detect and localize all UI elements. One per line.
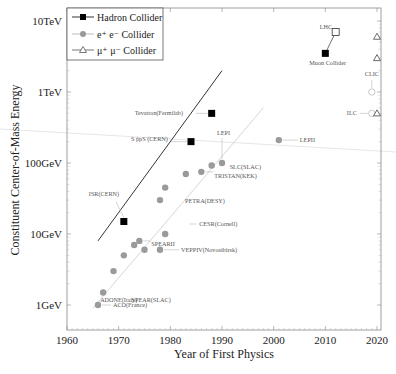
point-labels: ISR(CERN)S p̄pS (CERN)Tevatron(Fermilab)… — [89, 23, 379, 309]
ee-point — [183, 171, 189, 177]
point-label: LEPI — [217, 129, 230, 136]
hadron-point — [188, 138, 195, 145]
point-label: ILC — [347, 109, 357, 116]
svg-text:e⁺ e⁻ Collider: e⁺ e⁻ Collider — [97, 29, 155, 40]
ee-point — [141, 247, 147, 253]
ee-point — [131, 242, 137, 248]
point-label: ISR(CERN) — [89, 190, 119, 198]
hadron-point — [208, 110, 215, 117]
hadron-trend — [98, 71, 222, 241]
point-label: CLIC — [365, 70, 379, 77]
point-label: PETRA(DESY) — [185, 197, 225, 205]
mumu-point — [374, 55, 381, 61]
point-label: LHC — [320, 23, 332, 30]
ee-point — [121, 252, 127, 258]
ee-point — [162, 184, 168, 190]
x-tick-label: 2010 — [314, 334, 337, 346]
energy-frontier-chart: 19601970198019902000201020201GeV10GeV100… — [0, 0, 396, 374]
point-label: SPEARII — [151, 240, 174, 247]
ee-point-open — [369, 89, 375, 95]
ee-point — [100, 289, 106, 295]
background-artifact-line — [0, 129, 396, 152]
x-tick-label: 2000 — [263, 334, 286, 346]
y-tick-label: 10TeV — [32, 15, 62, 27]
ee-point — [276, 137, 282, 143]
point-label: CESR(Cornell) — [199, 220, 237, 228]
x-tick-label: 1980 — [159, 334, 182, 346]
ee-point — [136, 238, 142, 244]
ee-point — [219, 160, 225, 166]
ee-point — [157, 197, 163, 203]
point-label: SLC(SLAC) — [230, 163, 261, 171]
ee-point — [198, 169, 204, 175]
point-label: SPEAR(SLAC) — [132, 296, 171, 304]
ee-point — [208, 162, 214, 168]
ee-trend — [93, 108, 264, 308]
hadron-point-open — [332, 28, 339, 35]
ee-point — [157, 247, 163, 253]
filled-square-icon — [80, 14, 86, 20]
mumu-point — [374, 33, 381, 39]
hadron-point — [120, 218, 127, 225]
y-tick-label: 1TeV — [38, 86, 62, 98]
ee-point — [162, 231, 168, 237]
y-tick-label: 10GeV — [30, 228, 62, 240]
point-label: TRISTAN(KEK) — [214, 172, 256, 180]
point-label: Tevatron(Fermilab) — [135, 109, 183, 117]
y-tick-label: 100GeV — [25, 157, 62, 169]
ee-point — [110, 268, 116, 274]
point-label: VEPPIV(Novosibirsk) — [181, 246, 237, 254]
legend: Hadron Collider e⁺ e⁻ Collider μ⁺ μ⁻ Col… — [67, 8, 163, 60]
x-tick-label: 1990 — [211, 334, 234, 346]
svg-text:μ⁺ μ⁻ Collider: μ⁺ μ⁻ Collider — [97, 45, 157, 56]
x-axis-title: Year of First Physics — [174, 347, 274, 361]
trend-lines — [93, 71, 264, 309]
hadron-point — [322, 50, 329, 57]
y-axis-title: Constituent Center-of-Mass Energy — [8, 85, 22, 256]
x-tick-label: 2020 — [366, 334, 389, 346]
y-tick-label: 1GeV — [36, 299, 62, 311]
x-tick-label: 1960 — [56, 334, 79, 346]
x-tick-label: 1970 — [108, 334, 131, 346]
point-label: LEPII — [300, 136, 315, 143]
point-label: S p̄pS (CERN) — [131, 135, 168, 143]
filled-circle-icon — [80, 31, 86, 37]
point-label: Muon Collider — [309, 59, 346, 66]
svg-text:Hadron Collider: Hadron Collider — [97, 12, 163, 23]
